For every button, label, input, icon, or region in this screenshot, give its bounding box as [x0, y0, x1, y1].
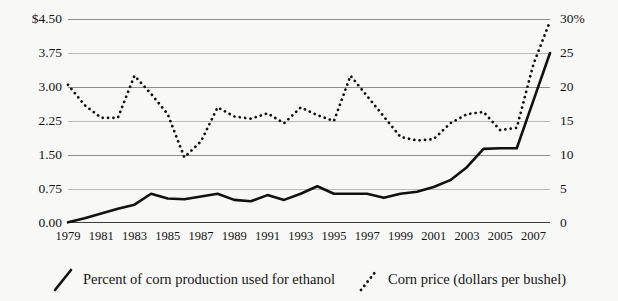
series-line-ethanol-percent: [68, 53, 550, 222]
y-axis-left-tick: 3.75: [2, 46, 62, 60]
x-axis-tick: 1993: [288, 229, 313, 244]
y-axis-left-tick: 0.00: [2, 216, 62, 230]
x-axis-tick: 1981: [89, 229, 114, 244]
x-axis-tick: 2003: [454, 229, 479, 244]
x-axis-tick: 1985: [155, 229, 180, 244]
y-axis-left-tick: $4.50: [2, 12, 62, 26]
x-axis-tick: 1999: [388, 229, 413, 244]
dotted-line-icon: [357, 267, 381, 293]
plot-area: [68, 19, 550, 223]
x-axis-tick: 1995: [321, 229, 346, 244]
x-axis-tick: 1989: [222, 229, 247, 244]
y-axis-right-tick: 10: [560, 148, 574, 162]
y-axis-right-tick: 5: [560, 182, 567, 196]
legend-item-corn-price: Corn price (dollars per bushel): [357, 267, 566, 293]
legend-item-ethanol-percent: Percent of corn production used for etha…: [52, 267, 335, 293]
y-axis-left-tick: 2.25: [2, 114, 62, 128]
y-axis-right-tick: 0: [560, 216, 567, 230]
chart-figure: $4.503.753.002.251.500.750.00 30%2520151…: [0, 0, 618, 301]
x-axis-tick: 1997: [355, 229, 380, 244]
y-axis-right-tick: 30%: [560, 12, 585, 26]
series-line-corn-price: [68, 21, 550, 157]
y-axis-left-tick: 0.75: [2, 182, 62, 196]
y-axis-right-tick: 15: [560, 114, 574, 128]
series-container: [68, 19, 550, 223]
x-axis-tick: 1983: [122, 229, 147, 244]
x-axis-tick: 2001: [421, 229, 446, 244]
legend-label-ethanol-percent: Percent of corn production used for etha…: [83, 271, 335, 288]
x-axis-tick: 2005: [488, 229, 513, 244]
y-axis-right-tick: 25: [560, 46, 574, 60]
x-axis-tick: 1979: [56, 229, 81, 244]
y-axis-right-tick: 20: [560, 80, 574, 94]
y-axis-left-tick: 3.00: [2, 80, 62, 94]
y-axis-left-tick: 1.50: [2, 148, 62, 162]
x-axis-tick: 1987: [188, 229, 213, 244]
x-axis-tick: 1991: [255, 229, 280, 244]
x-axis-tick: 2007: [521, 229, 546, 244]
solid-line-icon: [52, 267, 76, 293]
chart-legend: Percent of corn production used for etha…: [0, 258, 618, 301]
legend-label-corn-price: Corn price (dollars per bushel): [388, 271, 566, 288]
